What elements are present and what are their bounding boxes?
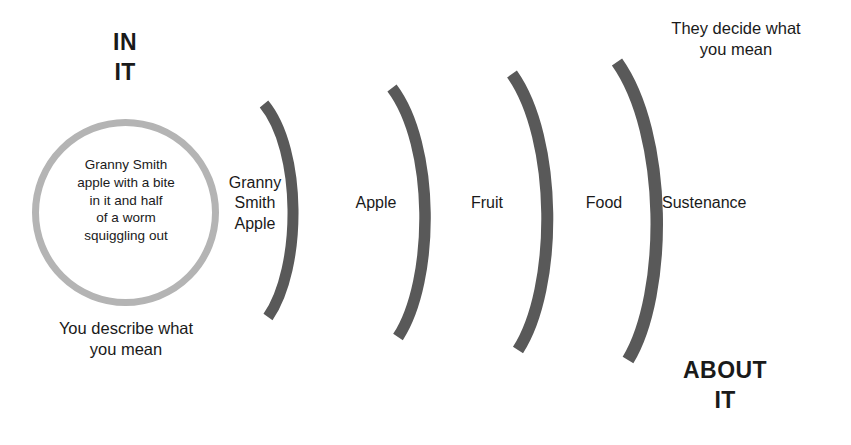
diagram-canvas: IN IT Granny Smith apple with a bite in … — [0, 0, 851, 445]
caption-they-decide: They decide what you mean — [630, 18, 842, 61]
arc-label-apple: Apple — [340, 193, 412, 213]
arc-label-sustenance: Sustenance — [662, 193, 790, 213]
arc-label-granny-smith-apple: Granny Smith Apple — [219, 173, 291, 234]
concrete-utterance-text: Granny Smith apple with a bite in it and… — [36, 156, 216, 245]
arc-label-fruit: Fruit — [455, 193, 519, 213]
caption-you-describe: You describe what you mean — [22, 318, 230, 361]
pole-label-in-it: IN IT — [55, 27, 195, 88]
arc-label-food: Food — [572, 193, 636, 213]
pole-label-about-it: ABOUT IT — [650, 355, 800, 416]
